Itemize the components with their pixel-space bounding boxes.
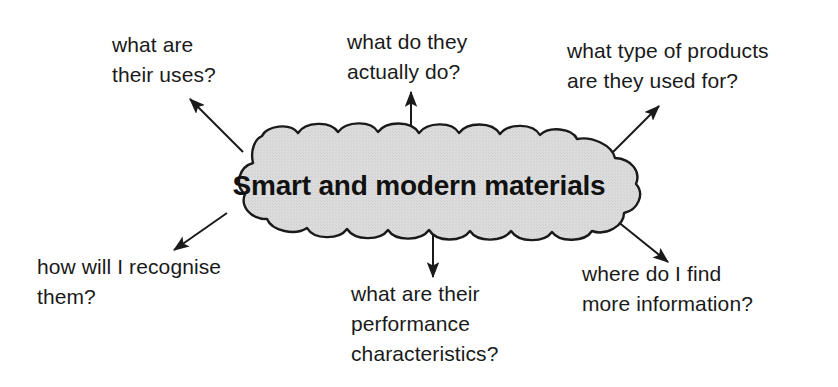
branch-label-performance: what are their performance characteristi… xyxy=(351,279,498,369)
branch-label-actually-do: what do they actually do? xyxy=(347,27,467,87)
arrow-to-information xyxy=(617,221,668,262)
arrow-to-uses xyxy=(190,99,243,152)
branch-label-uses: what are their uses? xyxy=(112,30,216,90)
branch-label-information: where do I find more information? xyxy=(582,259,753,319)
branch-label-products: what type of products are they used for? xyxy=(567,36,769,96)
branch-label-recognise: how will I recognise them? xyxy=(37,252,221,312)
arrow-to-recognise xyxy=(174,213,227,250)
mind-map-diagram: Smart and modern materials what are thei… xyxy=(0,0,838,387)
arrow-to-products xyxy=(613,106,659,152)
central-cloud-shape xyxy=(239,123,640,240)
